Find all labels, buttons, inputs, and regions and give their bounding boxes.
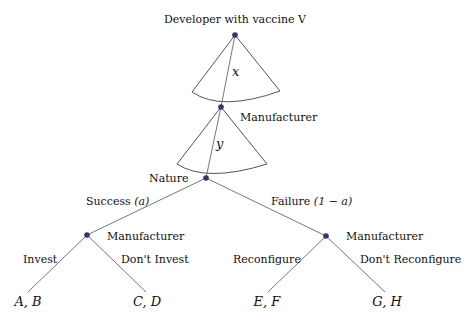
payoff-cd: C, D [133, 294, 162, 309]
label-dont-invest: Don't Invest [121, 253, 189, 266]
label-nature: Nature [149, 172, 188, 185]
label-invest: Invest [23, 253, 58, 266]
label-failure: Failure (1 − a) [271, 195, 352, 208]
label-manufacturer-top: Manufacturer [240, 111, 318, 124]
payoff-ef: E, F [253, 294, 282, 309]
payoff-gh: G, H [372, 294, 402, 309]
node-nature [203, 175, 209, 181]
label-success: Success (a) [86, 195, 149, 208]
label-dont-reconfigure: Don't Reconfigure [360, 253, 461, 266]
node-manufacturer-top [218, 104, 224, 110]
node-developer [232, 32, 238, 38]
variable-y: y [215, 136, 224, 151]
label-developer: Developer with vaccine V [164, 13, 307, 26]
variable-x: x [232, 64, 240, 79]
label-manufacturer-left: Manufacturer [107, 230, 185, 243]
game-tree-diagram: x y Developer with vaccine V Manufacture… [0, 0, 469, 322]
node-manufacturer-left [84, 232, 90, 238]
label-reconfigure: Reconfigure [233, 253, 301, 266]
label-manufacturer-right: Manufacturer [346, 230, 424, 243]
payoff-ab: A, B [13, 294, 41, 309]
node-manufacturer-right [323, 233, 329, 239]
